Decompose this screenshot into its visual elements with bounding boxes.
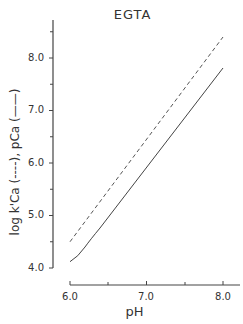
y-tick: 8.0: [10, 52, 44, 63]
x-tick: 6.0: [55, 291, 85, 302]
x-tick: 8.0: [208, 291, 238, 302]
series-log-k-ca: [70, 37, 223, 242]
x-axis-label: pH: [0, 304, 243, 319]
series-pca: [70, 68, 223, 262]
y-tick: 4.0: [10, 262, 44, 273]
x-tick: 7.0: [131, 291, 161, 302]
y-axis-label: log k'Ca (----), pCa (——): [8, 77, 22, 247]
